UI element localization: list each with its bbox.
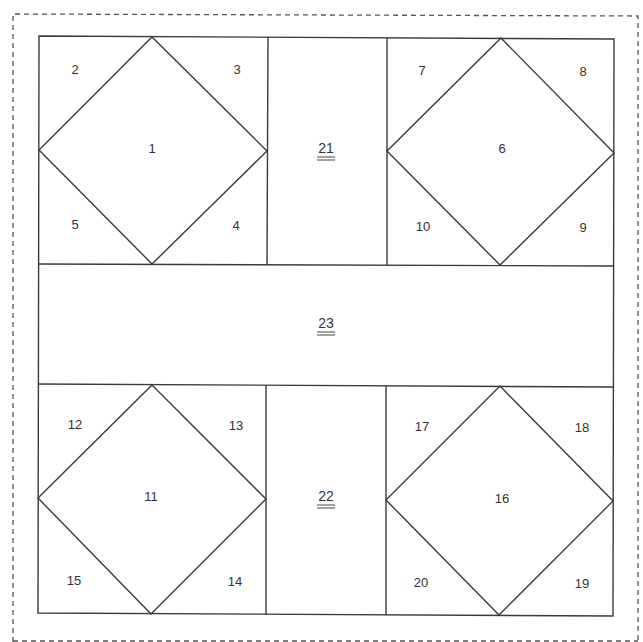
label-piece-4: 4 bbox=[232, 218, 239, 233]
label-piece-3: 3 bbox=[233, 62, 240, 77]
label-piece-16: 16 bbox=[495, 491, 509, 506]
label-piece-23: 23 bbox=[318, 315, 334, 331]
label-piece-7: 7 bbox=[418, 63, 425, 78]
label-piece-1: 1 bbox=[148, 141, 155, 156]
divider-band-bottom bbox=[38, 384, 613, 387]
label-piece-13: 13 bbox=[229, 418, 243, 433]
label-piece-14: 14 bbox=[228, 574, 242, 589]
label-piece-20: 20 bbox=[414, 575, 428, 590]
label-piece-2: 2 bbox=[71, 62, 78, 77]
label-piece-10: 10 bbox=[416, 219, 430, 234]
label-piece-18: 18 bbox=[575, 420, 589, 435]
label-piece-19: 19 bbox=[575, 576, 589, 591]
label-piece-6: 6 bbox=[498, 141, 505, 156]
quilt-diagram: 1 2 3 4 5 6 7 8 9 10 11 12 13 14 15 16 1… bbox=[0, 0, 643, 642]
label-piece-17: 17 bbox=[415, 419, 429, 434]
divider-band-top bbox=[39, 264, 614, 266]
label-piece-21: 21 bbox=[318, 140, 334, 156]
label-piece-5: 5 bbox=[71, 217, 78, 232]
label-piece-8: 8 bbox=[579, 64, 586, 79]
label-piece-12: 12 bbox=[68, 417, 82, 432]
label-piece-11: 11 bbox=[144, 489, 158, 504]
label-piece-9: 9 bbox=[579, 220, 586, 235]
label-piece-22: 22 bbox=[318, 488, 334, 504]
label-piece-15: 15 bbox=[67, 573, 81, 588]
